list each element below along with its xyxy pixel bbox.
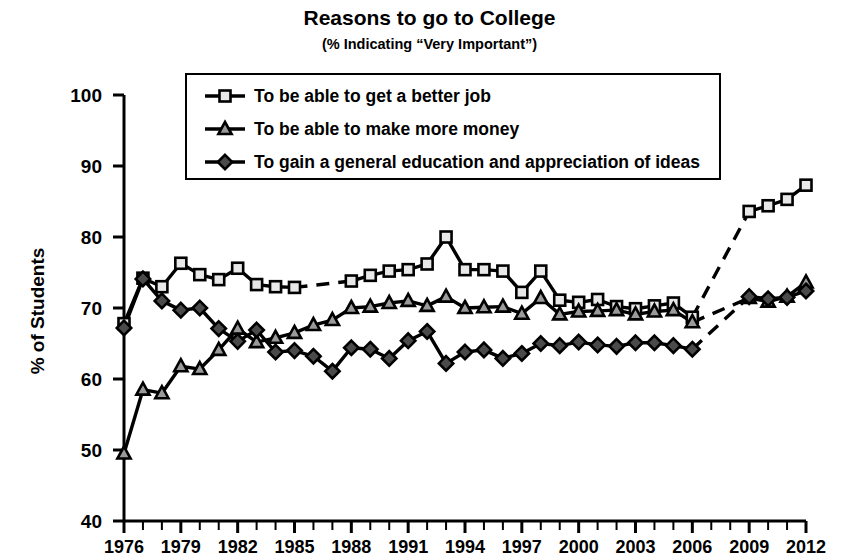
y-tick-label: 50: [56, 441, 102, 460]
data-point-triangle: [477, 300, 490, 312]
x-tick-label: 2009: [719, 538, 779, 556]
data-point-square: [516, 287, 527, 298]
x-tick-label: 1982: [208, 538, 268, 556]
data-point-triangle: [231, 322, 244, 334]
data-point-diamond: [609, 339, 623, 353]
chart-container: Reasons to go to College (% Indicating “…: [0, 0, 859, 560]
x-tick-label: 2000: [549, 538, 609, 556]
x-tick-label: 1985: [265, 538, 325, 556]
data-point-square: [384, 266, 395, 277]
data-point-square: [289, 282, 300, 293]
y-tick-label: 80: [56, 228, 102, 247]
data-point-square: [365, 270, 376, 281]
x-tick-label: 2006: [662, 538, 722, 556]
data-point-triangle: [326, 313, 339, 325]
legend-item-triangle[interactable]: To be able to make more money: [203, 118, 519, 140]
legend-marker-triangle-icon: [203, 118, 247, 140]
data-point-square: [782, 194, 793, 205]
data-point-square: [422, 258, 433, 269]
data-point-diamond: [439, 356, 453, 370]
data-point-triangle: [307, 318, 320, 330]
data-point-square: [194, 269, 205, 280]
data-point-square: [346, 276, 357, 287]
data-point-triangle: [421, 299, 434, 311]
y-tick-label: 60: [56, 370, 102, 389]
data-point-square: [801, 180, 812, 191]
x-tick-label: 1991: [378, 538, 438, 556]
data-point-triangle: [402, 294, 415, 306]
data-point-triangle: [383, 296, 396, 308]
legend-marker-square-icon: [203, 85, 247, 107]
data-point-square: [763, 200, 774, 211]
data-point-square: [441, 232, 452, 243]
data-point-diamond: [553, 338, 567, 352]
data-point-diamond: [590, 338, 604, 352]
legend-item-label: To be able to make more money: [254, 119, 519, 140]
data-point-square: [251, 279, 262, 290]
legend-item-square[interactable]: To be able to get a better job: [203, 85, 491, 107]
data-point-triangle: [345, 301, 358, 313]
data-point-diamond: [666, 338, 680, 352]
data-point-square: [497, 266, 508, 277]
data-point-diamond: [571, 335, 585, 349]
x-tick-label: 1994: [435, 538, 495, 556]
y-axis-label: % of Students: [27, 211, 49, 411]
data-point-triangle: [534, 291, 547, 303]
x-tick-label: 2003: [606, 538, 666, 556]
data-point-diamond: [218, 155, 232, 169]
data-point-square: [213, 274, 224, 285]
data-point-diamond: [647, 336, 661, 350]
data-point-square: [270, 281, 281, 292]
data-point-diamond: [628, 336, 642, 350]
data-point-square: [744, 206, 755, 217]
data-point-triangle: [174, 359, 187, 371]
data-point-square: [403, 264, 414, 275]
data-point-square: [156, 281, 167, 292]
data-point-diamond: [174, 303, 188, 317]
data-point-diamond: [363, 342, 377, 356]
x-tick-label: 1988: [321, 538, 381, 556]
data-point-square: [220, 91, 231, 102]
data-point-triangle: [288, 326, 301, 338]
y-tick-label: 70: [56, 299, 102, 318]
data-point-diamond: [287, 343, 301, 357]
data-point-diamond: [458, 345, 472, 359]
data-point-diamond: [496, 351, 510, 365]
x-tick-label: 1997: [492, 538, 552, 556]
data-point-diamond: [515, 346, 529, 360]
data-point-triangle: [117, 447, 130, 459]
chart-title: Reasons to go to College: [0, 6, 859, 30]
legend-item-label: To gain a general education and apprecia…: [254, 152, 700, 173]
data-point-triangle: [269, 331, 282, 343]
data-point-triangle: [136, 383, 149, 395]
legend-item-label: To be able to get a better job: [254, 86, 491, 107]
y-tick-label: 100: [56, 86, 102, 105]
y-tick-label: 40: [56, 512, 102, 531]
data-point-diamond: [420, 324, 434, 338]
x-tick-label: 1979: [151, 538, 211, 556]
data-point-triangle: [218, 122, 231, 134]
markers-triangle: [117, 275, 812, 458]
y-tick-label: 90: [56, 157, 102, 176]
data-point-square: [175, 258, 186, 269]
x-tick-label: 2012: [776, 538, 836, 556]
data-point-square: [232, 263, 243, 274]
data-point-triangle: [439, 290, 452, 302]
legend-marker-diamond-icon: [203, 151, 247, 173]
data-point-square: [535, 266, 546, 277]
data-point-triangle: [458, 301, 471, 313]
legend-item-diamond[interactable]: To gain a general education and apprecia…: [203, 151, 700, 173]
x-tick-label: 1976: [94, 538, 154, 556]
data-point-triangle: [364, 300, 377, 312]
data-point-diamond: [477, 343, 491, 357]
data-point-diamond: [534, 336, 548, 350]
data-point-square: [478, 264, 489, 275]
data-point-square: [460, 264, 471, 275]
data-point-triangle: [496, 300, 509, 312]
chart-subtitle: (% Indicating “Very Important”): [0, 36, 859, 52]
data-point-square: [554, 295, 565, 306]
